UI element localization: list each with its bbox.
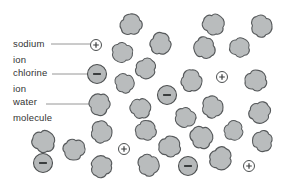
label-water-line1: water: [13, 94, 52, 110]
water-molecule-icon: [220, 117, 247, 144]
water-molecule-icon: [62, 139, 86, 161]
diagram-salt-dissolving-in-water: sodium ion chlorine ion water molecule: [0, 0, 285, 190]
water-molecule-icon: [85, 89, 114, 119]
water-molecule-icon: [28, 126, 60, 157]
water-molecule-icon: [252, 130, 273, 153]
water-molecule-icon: [227, 34, 254, 60]
water-molecule-icon: [191, 34, 218, 62]
water-molecule-icon: [205, 143, 237, 175]
water-molecule-icon: [156, 133, 184, 160]
water-molecule-icon: [119, 13, 143, 35]
water-molecule-icon: [199, 9, 229, 39]
minus-icon: [184, 165, 192, 167]
water-molecule-icon: [108, 39, 135, 66]
water-molecule-icon: [86, 151, 116, 181]
minus-icon: [163, 94, 171, 96]
label-water-line2: molecule: [13, 110, 52, 126]
water-molecule-icon: [187, 122, 217, 153]
label-water-molecule: water molecule: [13, 94, 52, 126]
water-molecule-icon: [126, 94, 155, 123]
label-sodium-ion: sodium ion: [13, 36, 45, 68]
water-molecule-icon: [251, 14, 273, 38]
label-chlorine-ion: chlorine ion: [13, 65, 47, 97]
water-molecule-icon: [246, 99, 274, 126]
water-molecule-icon: [132, 55, 160, 82]
water-molecule-icon: [113, 71, 137, 96]
label-chlorine-line1: chlorine: [13, 65, 47, 81]
water-molecule-icon: [91, 120, 113, 144]
water-molecule-icon: [146, 29, 175, 59]
water-molecule-icon: [136, 152, 162, 179]
water-molecule-icon: [203, 96, 224, 118]
minus-icon: [93, 73, 101, 75]
water-molecule-icon: [134, 119, 158, 142]
minus-icon: [39, 162, 47, 164]
water-molecule-icon: [243, 67, 270, 93]
water-molecule-icon: [178, 67, 205, 95]
label-sodium-line1: sodium: [13, 36, 45, 52]
